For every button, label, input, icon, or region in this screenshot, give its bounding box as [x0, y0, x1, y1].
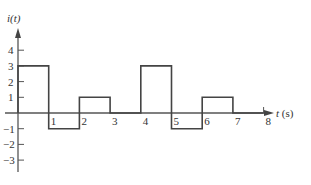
x-axis-label-unit: (s) [279, 107, 294, 120]
y-tick-label: 4 [8, 44, 14, 56]
y-tick-label: −2 [3, 138, 15, 150]
x-tick-label: 1 [51, 115, 57, 127]
x-tick-label: 8 [266, 115, 272, 127]
x-tick-label: 6 [204, 115, 210, 127]
y-tick-label: −1 [3, 123, 15, 135]
y-tick-label: 2 [8, 76, 14, 88]
step-waveform-chart: 4321−1−2−312345678 i(t) t (s) [0, 0, 311, 185]
x-tick-label: 5 [174, 115, 180, 127]
y-tick-label: 1 [8, 91, 14, 103]
x-tick-label: 7 [235, 115, 241, 127]
y-axis-arrow-icon [15, 28, 21, 38]
axis-ticks: 4321−1−2−312345678 [3, 44, 272, 166]
y-tick-label: 3 [8, 60, 14, 72]
x-tick-label: 4 [143, 115, 149, 127]
x-axis-label: t (s) [276, 107, 294, 120]
x-tick-label: 2 [81, 115, 87, 127]
y-tick-label: −3 [3, 154, 15, 166]
y-axis-label: i(t) [7, 12, 21, 25]
x-tick-label: 3 [112, 115, 118, 127]
